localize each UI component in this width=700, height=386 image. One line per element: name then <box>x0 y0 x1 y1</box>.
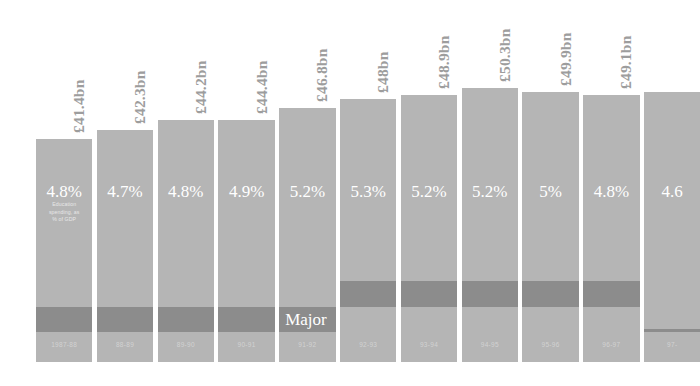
prime-minister-label: Major <box>279 307 327 333</box>
bar-value-label: £44.4bn <box>253 60 271 114</box>
year-label: 89-90 <box>158 341 214 348</box>
caption-line: % of GDP <box>36 216 92 224</box>
prime-minister-band <box>462 281 518 307</box>
bar <box>340 99 396 362</box>
year-label: 90-91 <box>218 341 274 348</box>
year-label: 91-92 <box>279 341 335 348</box>
year-label: 92-93 <box>340 341 396 348</box>
bar <box>462 88 518 362</box>
year-cell: 1987-88 <box>36 332 92 362</box>
bar-value-label: £41.4bn <box>70 79 88 133</box>
bar-column: £41.4bn4.8%Educationspending, as% of GDP… <box>36 0 92 386</box>
bar-column: £44.4bn4.9%90-91 <box>218 0 274 386</box>
bar-value-label: £48.9bn <box>435 35 453 89</box>
bar <box>401 95 457 362</box>
bar-value-label: £49.1bn <box>617 35 635 89</box>
bar <box>522 92 578 362</box>
year-label: 95-96 <box>522 341 578 348</box>
prime-minister-band <box>583 281 639 307</box>
year-cell: 89-90 <box>158 332 214 362</box>
bar-column: £48bn5.3%92-93 <box>340 0 396 386</box>
bar-column: £42.3bn4.7%88-89 <box>97 0 153 386</box>
prime-minister-band <box>522 281 578 307</box>
year-cell: 96-97 <box>583 332 639 362</box>
prime-minister-band <box>340 281 396 307</box>
year-label: 96-97 <box>583 341 639 348</box>
caption-line: spending, as <box>36 209 92 217</box>
bar-value-label: £42.3bn <box>131 70 149 124</box>
bar-value-label: £49.9bn <box>557 32 575 86</box>
prime-minister-band <box>36 307 92 333</box>
year-cell: 95-96 <box>522 332 578 362</box>
bar-value-label: £44.2bn <box>192 60 210 114</box>
bar-value-label: £50.3bn <box>496 28 514 82</box>
bar-percent-label: 5.2% <box>279 183 335 200</box>
bar-column: £49.9bn5%95-96 <box>522 0 578 386</box>
bar-percent-label: 4.8% <box>36 183 92 200</box>
year-cell: 94-95 <box>462 332 518 362</box>
bar <box>644 92 700 362</box>
year-label: 93-94 <box>401 341 457 348</box>
bar-percent-label: 4.8% <box>583 183 639 200</box>
bar-percent-label: 4.9% <box>218 183 274 200</box>
bar-column: £50.3bn5.2%94-95 <box>462 0 518 386</box>
year-cell: 91-92 <box>279 332 335 362</box>
prime-minister-band <box>158 307 214 333</box>
year-cell: 92-93 <box>340 332 396 362</box>
prime-minister-band <box>218 307 274 333</box>
bar-value-label: £48bn <box>374 52 392 94</box>
year-cell: 88-89 <box>97 332 153 362</box>
bar-percent-label: 5.2% <box>401 183 457 200</box>
year-label: 94-95 <box>462 341 518 348</box>
percent-series-caption: Educationspending, as% of GDP <box>36 201 92 224</box>
year-cell: 97- <box>644 332 700 362</box>
bar-column: £46.8bn5.2%Major91-92 <box>279 0 335 386</box>
bar-column: 4.6Blair97- <box>644 0 700 386</box>
bar-percent-label: 5.3% <box>340 183 396 200</box>
bar-value-label: £46.8bn <box>313 48 331 102</box>
year-label: 88-89 <box>97 341 153 348</box>
year-label: 1987-88 <box>36 341 92 348</box>
bar <box>583 95 639 362</box>
year-label: 97- <box>644 341 700 348</box>
bar-column: £48.9bn5.2%93-94 <box>401 0 457 386</box>
bar-percent-label: 4.7% <box>97 183 153 200</box>
bar-percent-label: 4.8% <box>158 183 214 200</box>
caption-line: Education <box>36 201 92 209</box>
year-cell: 90-91 <box>218 332 274 362</box>
year-cell: 93-94 <box>401 332 457 362</box>
prime-minister-band <box>97 307 153 333</box>
bar-percent-label: 4.6 <box>644 183 700 200</box>
bar-column: £49.1bn4.8%96-97 <box>583 0 639 386</box>
bar-column: £44.2bn4.8%89-90 <box>158 0 214 386</box>
bar-percent-label: 5% <box>522 183 578 200</box>
prime-minister-band <box>401 281 457 307</box>
bar-percent-label: 5.2% <box>462 183 518 200</box>
